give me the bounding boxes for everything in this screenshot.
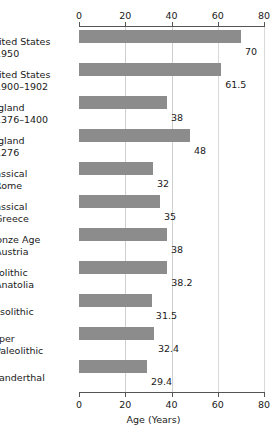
- category-label-line2: 1276: [0, 147, 72, 159]
- category-label-line1: Mesolithic: [0, 306, 34, 317]
- tick-bottom-0: [79, 393, 80, 397]
- category-label-line1: Upper: [0, 333, 15, 344]
- tick-bottom-80: [264, 393, 265, 397]
- bar-chart: 002020404060608080United States195070Uni…: [0, 0, 279, 433]
- bar: [79, 327, 154, 340]
- gridline-40: [172, 26, 173, 392]
- value-label: 38.2: [171, 277, 192, 288]
- tick-label-bottom-20: 20: [119, 399, 131, 410]
- category-label-line1: England: [0, 102, 25, 113]
- category-label: Bronze AgeAustria: [0, 234, 72, 257]
- category-label-line1: Neanderthal: [0, 372, 45, 383]
- value-label: 38: [171, 112, 183, 123]
- x-axis-title-text: Age (Years): [127, 414, 181, 425]
- category-label-line1: England: [0, 135, 25, 146]
- tick-bottom-60: [218, 393, 219, 397]
- tick-label-top-20: 20: [119, 10, 131, 21]
- tick-bottom-40: [172, 393, 173, 397]
- bar: [79, 294, 152, 307]
- axis-line-top: [79, 26, 265, 27]
- bar: [79, 30, 241, 43]
- tick-label-top-60: 60: [212, 10, 224, 21]
- tick-label-bottom-80: 80: [258, 399, 270, 410]
- category-label-line2: Austria: [0, 246, 72, 258]
- value-label: 31.5: [156, 310, 177, 321]
- category-label: NeolithicAnatolia: [0, 267, 72, 290]
- category-label-line2: Anatolia: [0, 279, 72, 291]
- category-label: United States1950: [0, 36, 72, 59]
- plot-area: 002020404060608080United States195070Uni…: [0, 0, 279, 433]
- category-label-line1: Classical: [0, 168, 27, 179]
- tick-top-20: [125, 22, 126, 26]
- tick-top-80: [264, 22, 265, 26]
- category-label: UpperPaleolithic: [0, 333, 72, 356]
- category-label: England1276: [0, 135, 72, 158]
- value-label: 32.4: [158, 343, 179, 354]
- value-label: 32: [157, 178, 169, 189]
- value-label: 29.4: [151, 376, 172, 387]
- value-label: 48: [194, 145, 206, 156]
- tick-top-60: [218, 22, 219, 26]
- bar: [79, 228, 167, 241]
- category-label: Mesolithic: [0, 306, 72, 318]
- bar: [79, 63, 221, 76]
- category-label-line2: 1950: [0, 48, 72, 60]
- bar: [79, 96, 167, 109]
- bar: [79, 195, 160, 208]
- category-label: Neanderthal: [0, 372, 72, 384]
- category-label-line1: United States: [0, 69, 50, 80]
- category-label-line2: 1376–1400: [0, 114, 72, 126]
- tick-label-bottom-60: 60: [212, 399, 224, 410]
- x-axis-title: Age (Years): [0, 414, 279, 425]
- category-label-line1: Neolithic: [0, 267, 28, 278]
- tick-label-top-80: 80: [258, 10, 270, 21]
- bar: [79, 360, 147, 373]
- category-label: ClassicalRome: [0, 168, 72, 191]
- category-label-line1: Bronze Age: [0, 234, 40, 245]
- category-label: England1376–1400: [0, 102, 72, 125]
- tick-label-top-40: 40: [165, 10, 177, 21]
- category-label-line2: Rome: [0, 180, 72, 192]
- tick-label-bottom-0: 0: [76, 399, 82, 410]
- tick-top-0: [79, 22, 80, 26]
- value-label: 70: [245, 46, 257, 57]
- gridline-60: [218, 26, 219, 392]
- category-label-line2: Paleolithic: [0, 345, 72, 357]
- category-label: ClassicalGreece: [0, 201, 72, 224]
- value-label: 61.5: [225, 79, 246, 90]
- bar: [79, 162, 153, 175]
- bar: [79, 129, 190, 142]
- tick-label-top-0: 0: [76, 10, 82, 21]
- tick-label-bottom-40: 40: [165, 399, 177, 410]
- value-label: 38: [171, 244, 183, 255]
- tick-top-40: [172, 22, 173, 26]
- value-label: 35: [164, 211, 176, 222]
- category-label-line2: 1900–1902: [0, 81, 72, 93]
- category-label-line1: Classical: [0, 201, 27, 212]
- category-label-line2: Greece: [0, 213, 72, 225]
- category-label-line1: United States: [0, 36, 50, 47]
- category-label: United States1900–1902: [0, 69, 72, 92]
- tick-bottom-20: [125, 393, 126, 397]
- gridline-80: [264, 26, 265, 392]
- bar: [79, 261, 167, 274]
